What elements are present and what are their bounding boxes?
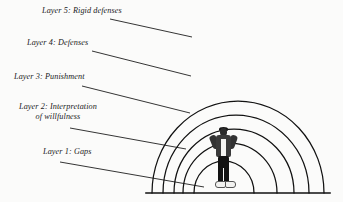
label-layer1: Layer 1: Gaps: [43, 147, 92, 157]
diagram-canvas: [0, 0, 343, 202]
leader-line-layer5: [110, 19, 192, 37]
leader-line-layer1: [60, 162, 204, 187]
label-layer3: Layer 3: Punishment: [14, 72, 85, 82]
layers-diagram-figure: Layer 5: Rigid defenses Layer 4: Defense…: [0, 0, 343, 202]
leader-line-layer4: [92, 51, 191, 76]
label-layer5: Layer 5: Rigid defenses: [42, 6, 122, 16]
label-layer2-line2: of willfulness: [36, 112, 81, 121]
person-standing-figure: [211, 128, 237, 190]
label-layer4: Layer 4: Defenses: [27, 38, 88, 48]
label-layer2: Layer 2: Interpretationof willfulness: [2, 102, 114, 122]
person-shoe-right: [225, 181, 236, 188]
person-leg-gap: [223, 168, 224, 182]
label-layer2-line1: Layer 2: Interpretation: [19, 102, 97, 111]
